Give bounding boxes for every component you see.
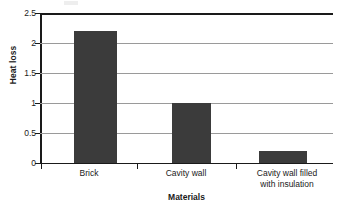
bar-cavity-wall-insulated[interactable] — [259, 151, 307, 163]
x-axis-line — [40, 163, 333, 164]
bar-chart: Heat loss 2.5 2 1.5 1 0.5 0 Brick Cavity… — [0, 0, 341, 214]
gridline-2-5 — [40, 13, 333, 15]
y-tick-label-0-5: 0.5 — [10, 129, 36, 138]
x-category-label-cavity-wall-insulated: Cavity wall filled with insulation — [237, 168, 337, 190]
y-tick-label-1-5: 1.5 — [10, 69, 36, 78]
y-tick-label-1: 1 — [10, 99, 36, 108]
x-category-label-line1: Cavity wall filled — [237, 168, 337, 179]
y-axis-tick-labels: 2.5 2 1.5 1 0.5 0 — [8, 0, 36, 214]
x-axis-title: Materials — [40, 192, 333, 202]
x-tick-mark-1 — [137, 164, 138, 169]
x-category-label-brick: Brick — [42, 168, 136, 179]
bar-brick[interactable] — [74, 31, 117, 163]
bar-cavity-wall[interactable] — [172, 103, 211, 163]
x-category-label-line2: with insulation — [237, 179, 337, 190]
y-tick-label-0: 0 — [10, 159, 36, 168]
plot-area — [40, 13, 333, 163]
y-tick-label-2-5: 2.5 — [10, 9, 36, 18]
y-tick-label-2: 2 — [10, 39, 36, 48]
x-category-label-cavity-wall: Cavity wall — [139, 168, 233, 179]
scan-artifact — [64, 1, 78, 5]
